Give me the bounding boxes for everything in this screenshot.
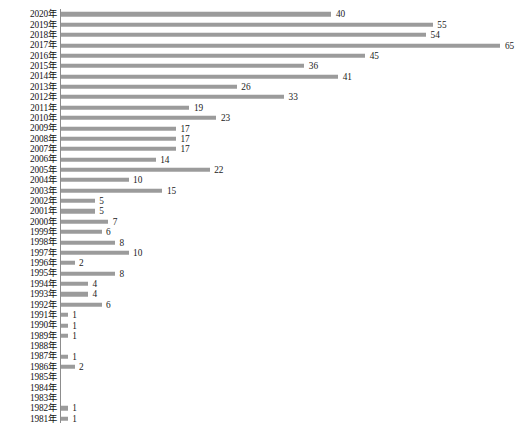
category-tick-label: 1982年 — [30, 403, 57, 413]
category-tick-label: 2018年 — [30, 30, 57, 40]
category-tick-label: 2009年 — [30, 123, 57, 133]
bar-value-label: 54 — [431, 30, 440, 40]
bar — [61, 33, 426, 37]
bar-value-label: 10 — [133, 247, 142, 257]
bar — [61, 23, 433, 27]
bar-value-label: 6 — [106, 299, 111, 309]
category-tick-label: 2004年 — [30, 175, 57, 185]
bar-value-label: 36 — [309, 61, 318, 71]
category-tick-label: 1985年 — [30, 372, 57, 382]
bar-row: 1997年10 — [0, 248, 532, 258]
bar-value-label: 15 — [167, 185, 176, 195]
bar-value-label: 4 — [93, 279, 98, 289]
bar — [61, 406, 68, 410]
category-tick-label: 1997年 — [30, 247, 57, 257]
bar — [61, 85, 237, 89]
bar — [61, 106, 189, 110]
bar-row: 2010年23 — [0, 113, 532, 123]
category-tick-label: 2020年 — [30, 9, 57, 19]
bar-row: 1994年4 — [0, 279, 532, 289]
category-tick-label: 2010年 — [30, 113, 57, 123]
category-tick-label: 2013年 — [30, 82, 57, 92]
bar — [61, 292, 88, 296]
bar-row: 2018年54 — [0, 30, 532, 40]
bar-value-label: 1 — [72, 413, 77, 423]
bar-value-label: 1 — [72, 320, 77, 330]
category-tick-label: 1996年 — [30, 258, 57, 268]
bar-value-label: 40 — [336, 9, 345, 19]
bar-value-label: 2 — [79, 258, 84, 268]
bar — [61, 323, 68, 327]
category-tick-label: 1998年 — [30, 237, 57, 247]
bar-row: 1988年 — [0, 341, 532, 351]
category-tick-label: 2012年 — [30, 92, 57, 102]
bar — [61, 74, 338, 78]
bar-chart: 2020年402019年552018年542017年652016年452015年… — [0, 0, 532, 441]
category-tick-label: 1983年 — [30, 393, 57, 403]
bar-value-label: 5 — [99, 196, 104, 206]
bar-value-label: 33 — [289, 92, 298, 102]
bar-row: 2013年26 — [0, 82, 532, 92]
plot-area: 2020年402019年552018年542017年652016年452015年… — [0, 0, 532, 430]
bar-row: 1999年6 — [0, 227, 532, 237]
category-tick-label: 2006年 — [30, 154, 57, 164]
bar-row: 1992年6 — [0, 299, 532, 309]
bar — [61, 157, 156, 161]
bar — [61, 95, 284, 99]
bar-row: 1993年4 — [0, 289, 532, 299]
bar-value-label: 41 — [343, 71, 352, 81]
bar-row: 1986年2 — [0, 362, 532, 372]
category-tick-label: 1987年 — [30, 351, 57, 361]
bar — [61, 188, 162, 192]
bar — [61, 168, 210, 172]
bar — [61, 220, 108, 224]
bar-value-label: 6 — [106, 227, 111, 237]
bar — [61, 271, 115, 275]
bar-row: 1989年1 — [0, 330, 532, 340]
bar — [61, 334, 68, 338]
bar-row: 2014年41 — [0, 71, 532, 81]
category-tick-label: 2003年 — [30, 185, 57, 195]
category-tick-label: 1990年 — [30, 320, 57, 330]
bar — [61, 313, 68, 317]
bar-row: 1982年1 — [0, 403, 532, 413]
bar-row: 1998年8 — [0, 237, 532, 247]
bar — [61, 147, 176, 151]
bar-value-label: 1 — [72, 403, 77, 413]
category-tick-label: 2017年 — [30, 40, 57, 50]
bar — [61, 43, 500, 47]
bar — [61, 116, 216, 120]
bar-row: 2004年10 — [0, 175, 532, 185]
bar-row: 2016年45 — [0, 50, 532, 60]
bar — [61, 261, 75, 265]
bar — [61, 126, 176, 130]
bar — [61, 199, 95, 203]
bar-value-label: 26 — [241, 82, 250, 92]
category-tick-label: 2014年 — [30, 71, 57, 81]
bar-row: 2007年17 — [0, 144, 532, 154]
bar-row: 1987年1 — [0, 351, 532, 361]
bar-value-label: 2 — [79, 362, 84, 372]
category-tick-label: 2005年 — [30, 165, 57, 175]
bar — [61, 178, 129, 182]
bar-row: 2017年65 — [0, 40, 532, 50]
category-tick-label: 1989年 — [30, 330, 57, 340]
bar — [61, 64, 304, 68]
bar-row: 1996年2 — [0, 258, 532, 268]
bar-row: 1991年1 — [0, 310, 532, 320]
category-tick-label: 1992年 — [30, 299, 57, 309]
bar — [61, 209, 95, 213]
bar — [61, 365, 75, 369]
category-tick-label: 2011年 — [30, 102, 57, 112]
category-tick-label: 2000年 — [30, 216, 57, 226]
bar-value-label: 10 — [133, 175, 142, 185]
bar-row: 2000年7 — [0, 216, 532, 226]
category-tick-label: 1984年 — [30, 382, 57, 392]
bar-value-label: 45 — [370, 50, 379, 60]
category-tick-label: 1986年 — [30, 362, 57, 372]
bar-row: 2015年36 — [0, 61, 532, 71]
bar-row: 1990年1 — [0, 320, 532, 330]
category-tick-label: 2015年 — [30, 61, 57, 71]
bar — [61, 12, 331, 16]
category-tick-label: 1995年 — [30, 268, 57, 278]
